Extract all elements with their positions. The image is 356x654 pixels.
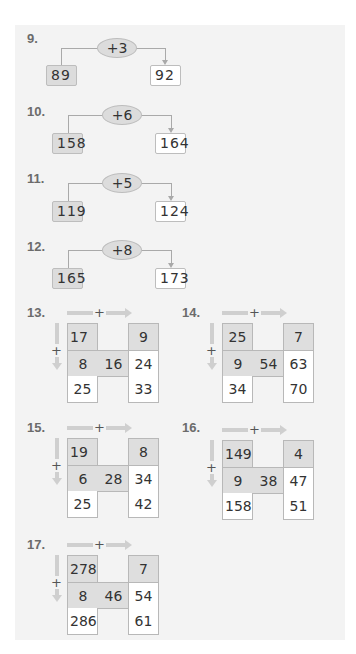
operator-oval: +8 xyxy=(102,240,142,260)
connector-line xyxy=(68,183,69,201)
arrow-down-icon xyxy=(52,363,62,370)
plus-sign: + xyxy=(206,461,217,474)
connector-line xyxy=(141,115,171,116)
arrow-down-icon xyxy=(52,478,62,485)
plus-sign: + xyxy=(93,538,106,551)
grid-cell-bottom-right[interactable]: 42 xyxy=(128,491,159,518)
result-value-box[interactable]: 173 xyxy=(155,268,186,289)
grid-cell-sum-center[interactable]: 38 xyxy=(253,467,284,494)
operator-oval: +3 xyxy=(97,38,137,58)
connector-line xyxy=(68,250,69,268)
connector-line xyxy=(141,183,171,184)
connector-line xyxy=(68,250,103,251)
grid-cell-mid-left: 9 xyxy=(222,467,253,494)
problem-number: 11. xyxy=(27,171,44,186)
grid-cell-top-right: 7 xyxy=(128,555,159,582)
problem-number: 14. xyxy=(182,305,200,320)
operator-oval: +5 xyxy=(102,173,142,193)
arrow-right-icon xyxy=(280,425,287,435)
grid-cell-top-left: 149 xyxy=(222,440,253,467)
arrow-right-icon xyxy=(125,308,132,318)
grid-cell-bottom-left[interactable]: 25 xyxy=(67,491,98,518)
grid-cell-sum-center[interactable]: 46 xyxy=(98,582,129,609)
connector-line xyxy=(61,48,98,49)
arrow-right-icon xyxy=(280,308,287,318)
grid-cell-top-left: 278 xyxy=(67,555,98,582)
grid-cell-bottom-left[interactable]: 158 xyxy=(222,493,253,520)
plus-sign: + xyxy=(93,306,106,319)
grid-cell-bottom-right[interactable]: 33 xyxy=(128,376,159,403)
problem-number: 10. xyxy=(27,104,45,119)
grid-cell-top-right: 9 xyxy=(128,323,159,350)
grid-cell-mid-right[interactable]: 47 xyxy=(283,467,314,494)
plus-sign: + xyxy=(51,459,62,472)
plus-sign: + xyxy=(248,423,261,436)
plus-sign: + xyxy=(206,344,217,357)
start-value-box: 158 xyxy=(52,133,83,154)
grid-cell-bottom-left[interactable]: 34 xyxy=(222,376,253,403)
grid-cell-mid-left: 6 xyxy=(67,465,98,492)
grid-cell-top-right: 4 xyxy=(283,440,314,467)
arrow-down-icon xyxy=(207,363,217,370)
grid-cell-bottom-right[interactable]: 61 xyxy=(128,608,159,635)
grid-cell-top-right: 7 xyxy=(283,323,314,350)
grid-cell-sum-center[interactable]: 28 xyxy=(98,465,129,492)
arrow-right-icon xyxy=(125,423,132,433)
grid-cell-top-left: 17 xyxy=(67,323,98,350)
grid-cell-bottom-left[interactable]: 25 xyxy=(67,376,98,403)
grid-cell-mid-left: 8 xyxy=(67,582,98,609)
problem-number: 13. xyxy=(27,305,45,320)
connector-line xyxy=(165,48,166,60)
grid-cell-mid-left: 8 xyxy=(67,350,98,377)
plus-sign: + xyxy=(248,306,261,319)
operator-oval: +6 xyxy=(102,105,142,125)
connector-line xyxy=(171,250,172,263)
grid-cell-mid-right[interactable]: 24 xyxy=(128,350,159,377)
connector-line xyxy=(171,183,172,196)
problem-number: 17. xyxy=(27,537,45,552)
result-value-box[interactable]: 164 xyxy=(155,133,186,154)
grid-cell-bottom-left[interactable]: 286 xyxy=(67,608,98,635)
connector-line xyxy=(68,183,103,184)
connector-line xyxy=(61,48,62,65)
grid-cell-sum-center[interactable]: 16 xyxy=(98,350,129,377)
result-value-box[interactable]: 92 xyxy=(150,65,181,86)
grid-cell-mid-right[interactable]: 54 xyxy=(128,582,159,609)
grid-cell-mid-left: 9 xyxy=(222,350,253,377)
start-value-box: 89 xyxy=(46,65,77,86)
plus-sign: + xyxy=(51,344,62,357)
grid-cell-top-left: 25 xyxy=(222,323,253,350)
grid-cell-sum-center[interactable]: 54 xyxy=(253,350,284,377)
arrow-right-icon xyxy=(125,540,132,550)
plus-sign: + xyxy=(93,421,106,434)
grid-cell-top-right: 8 xyxy=(128,438,159,465)
arrow-down-icon xyxy=(52,595,62,602)
problem-number: 16. xyxy=(182,420,200,435)
grid-cell-mid-right[interactable]: 63 xyxy=(283,350,314,377)
grid-cell-top-left: 19 xyxy=(67,438,98,465)
connector-line xyxy=(68,115,103,116)
start-value-box: 119 xyxy=(52,201,83,222)
grid-cell-bottom-right[interactable]: 51 xyxy=(283,493,314,520)
grid-cell-bottom-right[interactable]: 70 xyxy=(283,376,314,403)
connector-line xyxy=(141,250,171,251)
start-value-box: 165 xyxy=(52,268,83,289)
connector-line xyxy=(171,115,172,128)
problem-number: 12. xyxy=(27,239,45,254)
connector-line xyxy=(68,115,69,133)
connector-line xyxy=(136,48,165,49)
result-value-box[interactable]: 124 xyxy=(155,201,186,222)
grid-cell-mid-right[interactable]: 34 xyxy=(128,465,159,492)
problem-number: 9. xyxy=(27,31,38,46)
problem-number: 15. xyxy=(27,420,45,435)
plus-sign: + xyxy=(51,576,62,589)
arrow-down-icon xyxy=(207,480,217,487)
